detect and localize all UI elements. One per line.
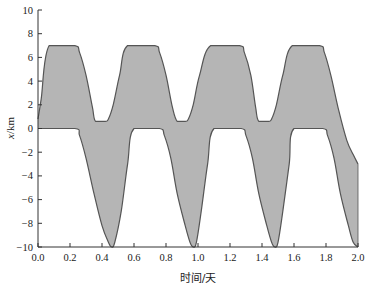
y-tick-label: 10	[23, 5, 34, 16]
y-tick-label: −10	[17, 242, 33, 253]
y-tick-label: 0	[28, 123, 33, 134]
x-tick-label: 1.8	[319, 252, 332, 263]
x-axis-title: 时间/天	[180, 272, 217, 285]
y-axis-title-unit: /km	[4, 117, 16, 135]
x-tick-label: 1.0	[191, 252, 204, 263]
y-tick-label: −4	[22, 170, 34, 181]
x-tick-label: 1.6	[287, 252, 300, 263]
x-tick-label: 0.0	[31, 252, 44, 263]
x-tick-label: 1.4	[255, 252, 269, 263]
y-tick-label: −8	[22, 218, 33, 229]
x-tick-label: 0.6	[127, 252, 140, 263]
svg-text:x/km: x/km	[4, 117, 16, 140]
y-axis-title: x/km	[4, 117, 16, 140]
y-tick-label: 2	[28, 99, 33, 110]
x-axis-ticks: 0.00.20.40.60.81.01.21.41.61.82.0	[31, 243, 364, 263]
x-tick-label: 1.2	[223, 252, 236, 263]
y-tick-label: 8	[28, 28, 33, 39]
y-tick-label: −2	[22, 147, 33, 158]
x-tick-label: 0.2	[63, 252, 76, 263]
y-tick-label: 4	[28, 76, 34, 87]
y-tick-label: 6	[28, 52, 33, 63]
chart: 1086420−2−4−6−8−10 0.00.20.40.60.81.01.2…	[0, 0, 365, 292]
y-tick-label: −6	[22, 194, 33, 205]
x-tick-label: 2.0	[351, 252, 364, 263]
x-tick-label: 0.4	[95, 252, 109, 263]
x-tick-label: 0.8	[159, 252, 172, 263]
